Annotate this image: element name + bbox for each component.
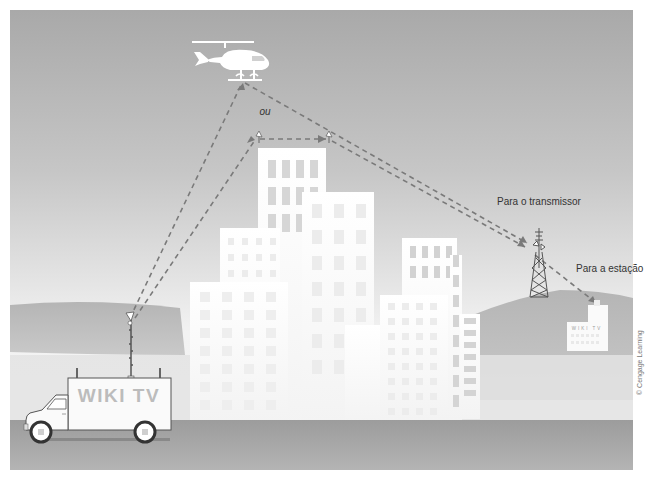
building-window (270, 270, 276, 277)
building-window (228, 254, 234, 261)
building-window (402, 348, 409, 355)
label-or: ou (259, 106, 271, 117)
building-window (200, 346, 210, 356)
building-window (402, 333, 409, 340)
building-window (282, 187, 290, 205)
building-window (416, 318, 423, 325)
building-window (430, 393, 437, 400)
building-window (430, 333, 437, 340)
building-window (244, 292, 254, 302)
building-window (422, 246, 428, 258)
building-window (222, 292, 232, 302)
building-window (312, 230, 322, 244)
building-window (200, 382, 210, 392)
station-sign: WIKI TV (572, 326, 603, 331)
building-window (388, 393, 395, 400)
building-window (356, 282, 366, 296)
building-window (228, 238, 234, 245)
building-window (244, 328, 254, 338)
building-window (410, 266, 416, 278)
building-window (464, 366, 476, 372)
building-window (388, 333, 395, 340)
building-window (464, 378, 476, 384)
building-window (334, 282, 344, 296)
building-window (266, 382, 276, 392)
building-window (296, 160, 304, 178)
building-window (434, 246, 440, 258)
building-window (200, 292, 210, 302)
van-logo: WIKI TV (78, 385, 160, 406)
building-window (222, 382, 232, 392)
building-window (282, 214, 290, 232)
building-window (453, 355, 459, 367)
building-window (222, 328, 232, 338)
building-window (430, 408, 437, 415)
building-window (453, 395, 459, 407)
building-window (356, 308, 366, 322)
building-window (282, 160, 290, 178)
building-window (256, 270, 262, 277)
building-window (453, 255, 459, 267)
building-window (312, 282, 322, 296)
building-window (222, 310, 232, 320)
building-window (388, 408, 395, 415)
building-window (422, 266, 428, 278)
building-window (430, 303, 437, 310)
building-window (222, 364, 232, 374)
building-window (228, 270, 234, 277)
building-window (200, 364, 210, 374)
building-window (268, 187, 276, 205)
building-window (430, 378, 437, 385)
building-window (256, 254, 262, 261)
building-window (453, 335, 459, 347)
building-window (464, 390, 476, 396)
building-window (334, 334, 344, 348)
building-window (200, 328, 210, 338)
building-window (388, 303, 395, 310)
building-window (266, 364, 276, 374)
building-window (256, 238, 262, 245)
building-window (402, 393, 409, 400)
building-window (200, 400, 210, 410)
building-window (388, 318, 395, 325)
building-window (270, 238, 276, 245)
building-window (430, 318, 437, 325)
building-window (244, 364, 254, 374)
building-window (312, 360, 322, 374)
label-to-station: Para a estação (576, 263, 644, 274)
building-window (402, 363, 409, 370)
building-window (434, 266, 440, 278)
building-window (266, 346, 276, 356)
building-window (416, 333, 423, 340)
building-window (270, 254, 276, 261)
building-window (200, 310, 210, 320)
building-window (334, 308, 344, 322)
building-window (410, 246, 416, 258)
hill-left (10, 302, 185, 355)
building-window (266, 310, 276, 320)
building-window (310, 160, 318, 178)
building-window (453, 275, 459, 287)
building-window (416, 408, 423, 415)
building-window (453, 315, 459, 327)
building-window (453, 375, 459, 387)
van-wheel-rear (135, 422, 155, 442)
building-window (312, 334, 322, 348)
building-window (402, 318, 409, 325)
building-window (464, 354, 476, 360)
building-window (416, 363, 423, 370)
building-window (388, 363, 395, 370)
building-window (416, 348, 423, 355)
building-window (453, 295, 459, 307)
building-window (464, 330, 476, 336)
building-window (312, 308, 322, 322)
building-window (334, 230, 344, 244)
building-window (464, 342, 476, 348)
building-window (356, 204, 366, 218)
van-wheel-front (31, 422, 51, 442)
building-window (402, 408, 409, 415)
helicopter-rotor (192, 41, 254, 43)
building-window (266, 400, 276, 410)
building-window (222, 346, 232, 356)
building-window (244, 382, 254, 392)
